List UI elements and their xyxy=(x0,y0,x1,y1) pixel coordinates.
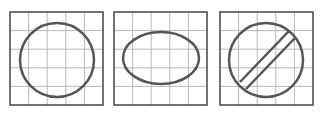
panel-border xyxy=(220,12,313,105)
panel-circle-bar xyxy=(220,12,313,105)
diagonal-bar-upper xyxy=(240,31,289,82)
diagram-canvas xyxy=(0,0,322,121)
ellipse-shape xyxy=(123,32,199,84)
panel-border xyxy=(10,12,103,105)
grid-lines xyxy=(114,12,207,105)
panel-ellipse xyxy=(114,12,207,105)
panel-border xyxy=(114,12,207,105)
grid-lines xyxy=(10,12,103,105)
grid-lines xyxy=(220,12,313,105)
panel-circle xyxy=(10,12,103,105)
diagonal-bar-lower xyxy=(246,38,295,89)
